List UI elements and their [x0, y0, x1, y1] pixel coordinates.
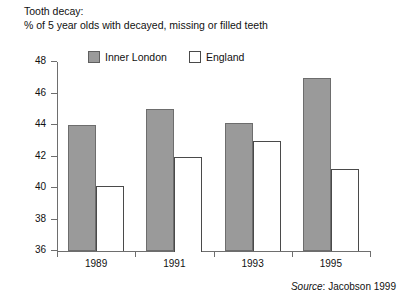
legend-item-england: England [189, 51, 245, 63]
source-label: Source [291, 281, 323, 292]
y-tick-label: 36 [0, 244, 46, 256]
x-tick-mark [214, 251, 215, 257]
x-tick-label-1993: 1993 [214, 258, 292, 270]
x-tick-mark [135, 251, 136, 257]
y-tick-mark [51, 187, 57, 188]
bar-england-1991 [174, 157, 202, 252]
x-tick-label-1991: 1991 [135, 258, 213, 270]
y-tick-label: 40 [0, 181, 46, 193]
y-tick-mark [51, 124, 57, 125]
y-tick-label: 42 [0, 150, 46, 162]
chart-legend: Inner London England [88, 51, 266, 63]
x-tick-mark [292, 251, 293, 257]
y-tick-mark [51, 93, 57, 94]
legend-item-inner-london: Inner London [88, 51, 167, 63]
bar-england-1995 [331, 169, 359, 251]
legend-label-england: England [206, 51, 245, 63]
y-tick-mark [51, 61, 57, 62]
y-tick-label: 44 [0, 118, 46, 130]
bar-england-1993 [253, 141, 281, 251]
bar-chart: 36384042444648 1989199119931995 Inner Lo… [0, 0, 408, 305]
x-tick-label-1989: 1989 [57, 258, 135, 270]
bar-inner-london-1989 [68, 125, 96, 251]
bar-inner-london-1993 [225, 123, 253, 251]
legend-label-inner-london: Inner London [105, 51, 167, 63]
y-tick-label: 38 [0, 213, 46, 225]
y-tick-mark [51, 219, 57, 220]
bar-inner-london-1995 [303, 78, 331, 251]
source-note: Source: Jacobson 1999 [291, 281, 396, 293]
legend-swatch-icon-inner-london [88, 51, 100, 63]
x-tick-mark [57, 251, 58, 257]
x-tick-label-1995: 1995 [292, 258, 370, 270]
y-tick-label: 46 [0, 87, 46, 99]
y-axis-line [57, 62, 58, 252]
y-tick-label: 48 [0, 55, 46, 67]
legend-swatch-icon-england [189, 51, 201, 63]
bar-england-1989 [96, 186, 124, 251]
y-tick-mark [51, 156, 57, 157]
x-tick-mark [370, 251, 371, 257]
bar-inner-london-1991 [146, 109, 174, 251]
source-text: Jacobson 1999 [328, 281, 396, 292]
